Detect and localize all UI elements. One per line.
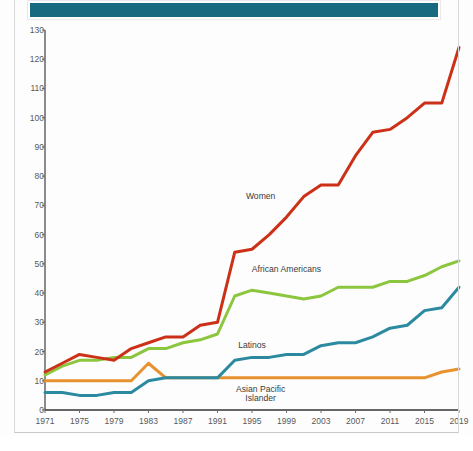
y-tick-label: 100 <box>14 114 44 122</box>
series-label-asian-pacific-islander: Asian PacificIslander <box>236 385 285 404</box>
y-axis-tick-labels: 0102030405060708090100110120130 <box>14 24 44 424</box>
chart-page: 0102030405060708090100110120130 19711975… <box>0 0 473 451</box>
footer-spacer <box>0 435 473 451</box>
y-tick-label: 60 <box>14 231 44 239</box>
chart-container: 0102030405060708090100110120130 19711975… <box>0 24 473 424</box>
header-banner-frame <box>27 0 441 20</box>
x-tick-label: 1987 <box>174 416 193 426</box>
x-tick-label: 2011 <box>381 416 399 426</box>
chart-axes <box>42 30 459 413</box>
y-tick-label: 50 <box>14 260 44 268</box>
y-tick-label: 90 <box>14 143 44 151</box>
y-tick-label: 130 <box>14 26 44 34</box>
y-tick-label: 70 <box>14 201 44 209</box>
x-tick-label: 1999 <box>277 416 296 426</box>
series-label-latinos: Latinos <box>238 341 266 351</box>
x-tick-label: 1983 <box>139 416 158 426</box>
y-tick-label: 40 <box>14 289 44 297</box>
header-banner <box>30 3 438 17</box>
x-tick-label: 2003 <box>312 416 331 426</box>
x-tick-label: 2019 <box>450 416 469 426</box>
x-tick-label: 1991 <box>208 416 227 426</box>
y-tick-label: 20 <box>14 348 44 356</box>
x-tick-label: 1975 <box>70 416 89 426</box>
series-label-african-americans: African Americans <box>252 265 321 275</box>
series-label-line: Islander <box>236 394 285 404</box>
y-tick-label: 10 <box>14 377 44 385</box>
series-label-women: Women <box>246 192 275 202</box>
y-tick-label: 110 <box>14 84 44 92</box>
x-axis-tick-labels: 1971197519791983198719911995199920032007… <box>0 410 473 426</box>
y-tick-label: 80 <box>14 172 44 180</box>
y-tick-label: 120 <box>14 55 44 63</box>
x-tick-label: 2015 <box>415 416 434 426</box>
x-tick-label: 1979 <box>105 416 124 426</box>
x-tick-label: 1971 <box>36 416 55 426</box>
y-tick-label: 30 <box>14 318 44 326</box>
line-chart-plot <box>0 24 473 424</box>
x-tick-label: 2007 <box>346 416 365 426</box>
x-tick-label: 1995 <box>243 416 262 426</box>
